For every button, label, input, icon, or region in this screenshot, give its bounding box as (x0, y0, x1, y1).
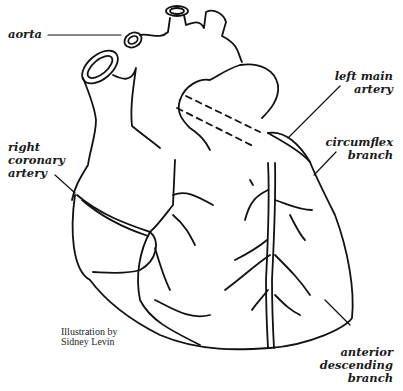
pulmonary-outline (184, 11, 242, 62)
pulmonary-trunk-edge (179, 100, 210, 150)
vessel-opening-aorta (122, 29, 145, 50)
vessel-opening-large-inner (84, 52, 116, 82)
credit-line2: Sidney Levin (61, 337, 117, 347)
heart-diagram: aorta left main artery circumflex branch… (0, 0, 403, 391)
left-atrium-outline (180, 64, 278, 118)
aorta-outline (113, 68, 160, 148)
label-left-main-artery: left main artery (335, 70, 393, 96)
left-main-artery-dashed (186, 96, 260, 132)
label-circumflex-branch: circumflex branch (326, 136, 394, 162)
anterior-descending-leader (325, 300, 350, 325)
diagonal-4 (235, 240, 267, 260)
diagonal-6 (275, 255, 310, 295)
branch-b (173, 215, 195, 245)
vessel-opening-large (76, 44, 124, 89)
conus-branch (150, 160, 175, 232)
diagonal-1 (245, 190, 268, 220)
illustration-credit: Illustration by Sidney Levin (61, 327, 117, 347)
posterior-branch (155, 300, 210, 316)
left-main-leader (288, 86, 340, 138)
arch-outline (140, 18, 170, 36)
diagonal-8 (275, 295, 300, 315)
label-circumflex-line2: branch (326, 149, 394, 162)
vessel-opening-aorta-inner (127, 34, 139, 45)
vessel-opening-top-inner (170, 8, 184, 14)
label-right-coronary-artery: right coronary artery (8, 141, 65, 180)
septal-stub (250, 180, 253, 185)
label-anterior-descending-branch: anterior descending branch (320, 346, 393, 385)
branch-a (173, 193, 213, 205)
branch-c (155, 248, 170, 290)
diagonal-5 (225, 255, 270, 290)
diagonal-3 (290, 215, 305, 240)
ventricles-outline (73, 133, 353, 349)
label-right-coronary-line3: artery (8, 167, 65, 180)
right-atrium-outline (72, 78, 96, 200)
label-left-main-artery-line2: artery (335, 83, 393, 96)
label-anterior-line3: branch (320, 372, 393, 385)
label-aorta: aorta (8, 28, 42, 41)
diagonal-2 (275, 200, 312, 210)
